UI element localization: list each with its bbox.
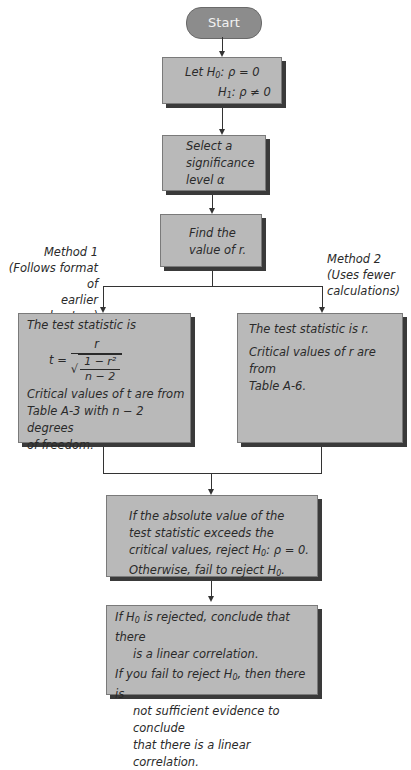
find-r-line: value of r.	[189, 242, 261, 259]
method1-critical-text: Table A-3 with n − 2 degrees	[27, 403, 190, 437]
null-hypothesis: Let H0: ρ = 0	[185, 64, 281, 84]
method2-box: The test statistic is r. Critical values…	[237, 313, 403, 443]
method2-intro: The test statistic is r.	[249, 321, 402, 338]
t-statistic-formula: t = r √ 1 − r² n − 2	[27, 334, 190, 386]
alternative-hypothesis: H1: ρ ≠ 0	[185, 84, 281, 104]
method2-critical-text: Table A-6.	[249, 378, 402, 395]
method1-critical-text: of freedom.	[27, 437, 190, 454]
hypotheses-box: Let H0: ρ = 0 H1: ρ ≠ 0	[162, 57, 282, 104]
decision-line: critical values, reject H0: ρ = 0.	[129, 542, 317, 562]
connector-method2-down	[321, 447, 322, 473]
decision-line: test statistic exceeds the	[129, 525, 317, 542]
decision-box: If the absolute value of the test statis…	[106, 495, 318, 577]
find-r-line: Find the	[189, 225, 261, 242]
connector-method1-down	[103, 447, 104, 473]
decision-line: Otherwise, fail to reject H0.	[129, 562, 317, 582]
conclusion-line: If H0 is rejected, conclude that there	[115, 609, 317, 646]
significance-line: level α	[186, 172, 265, 189]
method1-box: The test statistic is t = r √ 1 − r² n −…	[18, 313, 191, 443]
connector-merge-horizontal	[103, 473, 322, 474]
conclusion-line: that there is a linear correlation.	[115, 737, 317, 770]
connector-split-horizontal	[103, 286, 323, 287]
significance-line: significance	[186, 155, 265, 172]
significance-line: Select a	[186, 138, 265, 155]
conclusion-line: If you fail to reject H0, then there is	[115, 666, 317, 703]
decision-line: If the absolute value of the	[129, 508, 317, 525]
conclusion-line: not sufficient evidence to conclude	[115, 703, 317, 737]
method1-critical-text: Critical values of t are from	[27, 386, 190, 403]
method1-label: Method 1 (Follows format of earlier chap…	[6, 244, 98, 324]
conclusion-box: If H0 is rejected, conclude that there i…	[106, 605, 318, 695]
method2-critical-text: Critical values of r are from	[249, 344, 402, 378]
method1-intro: The test statistic is	[27, 317, 190, 334]
connector-find-r-down	[212, 271, 213, 287]
conclusion-line: is a linear correlation.	[115, 646, 317, 663]
method2-label: Method 2 (Uses fewer calculations)	[327, 251, 411, 299]
arrow-head	[208, 596, 214, 602]
significance-box: Select a significance level α	[162, 135, 266, 191]
start-node: Start	[186, 7, 262, 39]
find-r-box: Find the value of r.	[160, 214, 262, 267]
